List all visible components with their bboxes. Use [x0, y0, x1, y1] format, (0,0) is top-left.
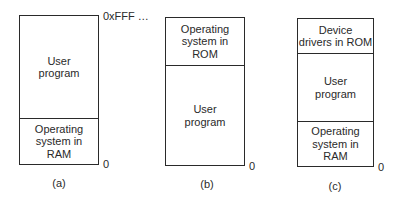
segment-os-ram: Operating system in RAM [298, 121, 373, 166]
panel-caption-b: (b) [192, 178, 222, 190]
bottom-address-label: 0 [103, 158, 109, 170]
segment-os-ram: Operating system in RAM [20, 118, 98, 164]
segment-label: Operating system in RAM [35, 123, 83, 161]
segment-user-program: User program [20, 16, 98, 118]
memory-box-a: User program Operating system in RAM [19, 15, 99, 165]
panel-caption-a: (a) [44, 177, 74, 189]
segment-user-program: User program [166, 65, 244, 165]
segment-drivers-rom: Device drivers in ROM [298, 19, 373, 53]
memory-box-b: Operating system in ROM User program [165, 17, 245, 166]
memory-layout-diagram: User program Operating system in RAM 0xF… [0, 0, 401, 202]
segment-label: Operating system in ROM [181, 23, 229, 61]
segment-label: User program [39, 55, 80, 80]
memory-box-c: Device drivers in ROM User program Opera… [297, 18, 374, 167]
segment-label: Operating system in RAM [311, 125, 359, 163]
top-address-label: 0xFFF … [103, 10, 149, 22]
bottom-address-label: 0 [378, 161, 384, 173]
segment-user-program: User program [298, 53, 373, 121]
segment-label: User program [315, 75, 356, 100]
segment-os-rom: Operating system in ROM [166, 18, 244, 65]
bottom-address-label: 0 [249, 160, 255, 172]
panel-caption-c: (c) [320, 180, 350, 192]
segment-label: User program [185, 103, 226, 128]
segment-label: Device drivers in ROM [299, 24, 372, 49]
